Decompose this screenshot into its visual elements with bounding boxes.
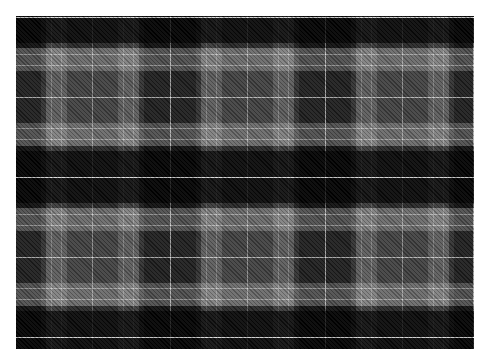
twill-texture [16,16,474,349]
tartan-fabric [16,16,474,349]
